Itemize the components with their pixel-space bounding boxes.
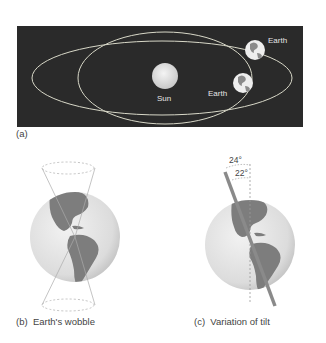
- earth-label-top: Earth: [268, 36, 287, 45]
- caption-b: (b) Earth's wobble: [16, 316, 95, 327]
- earth-globe-tilt: [205, 164, 295, 306]
- caption-c-text: Variation of tilt: [210, 316, 270, 327]
- sun-label: Sun: [157, 94, 171, 103]
- angle-label-max: 24°: [229, 155, 242, 165]
- caption-b-tag: (b): [16, 316, 28, 327]
- earth-globe-icon: [245, 40, 265, 60]
- panel-a-tag: (a): [16, 128, 28, 139]
- diagram-canvas: [0, 0, 326, 343]
- caption-c: (c) Variation of tilt: [194, 316, 270, 327]
- earth-label-bottom: Earth: [208, 89, 227, 98]
- sun-icon: [152, 63, 178, 89]
- caption-c-tag: (c): [194, 316, 205, 327]
- angle-label-min: 22°: [235, 168, 248, 178]
- caption-b-text: Earth's wobble: [33, 316, 95, 327]
- earth-globe-wobble: [30, 162, 120, 311]
- earth-globe-icon: [233, 73, 253, 93]
